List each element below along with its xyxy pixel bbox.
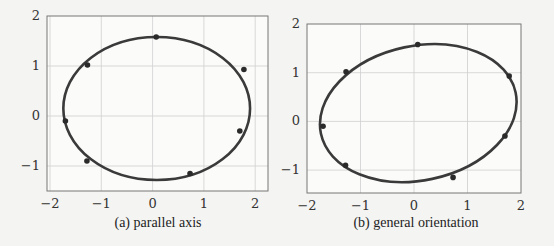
data-point <box>241 67 247 73</box>
plot-general-orientation: −2−1012210−1 <box>281 16 530 213</box>
caption-a: (a) parallel axis <box>114 215 201 231</box>
x-tick-label: 0 <box>148 196 156 211</box>
data-point <box>153 34 159 40</box>
data-point <box>502 133 508 139</box>
x-tick-label: −1 <box>92 196 111 211</box>
y-tick-label: 2 <box>32 8 40 23</box>
data-point <box>237 128 243 134</box>
data-point <box>63 118 69 124</box>
x-tick-label: −1 <box>351 198 370 213</box>
data-point <box>320 123 326 129</box>
y-tick-label: 0 <box>32 108 40 123</box>
figure: −2−1012210−1 −2−1012210−1 (a) parallel a… <box>0 0 554 246</box>
x-tick-label: 2 <box>251 196 259 211</box>
data-point <box>85 62 91 68</box>
x-tick-label: 1 <box>200 196 208 211</box>
x-tick-label: −2 <box>297 198 316 213</box>
y-tick-label: 0 <box>292 113 300 128</box>
data-point <box>187 171 193 177</box>
data-point <box>343 69 349 75</box>
caption-b: (b) general orientation <box>353 215 478 231</box>
data-point <box>84 158 90 164</box>
x-tick-label: 0 <box>410 198 418 213</box>
y-tick-label: 2 <box>292 16 300 31</box>
x-tick-label: 1 <box>463 198 471 213</box>
y-tick-label: 1 <box>32 58 40 73</box>
y-tick-label: −1 <box>281 162 300 177</box>
data-point <box>415 42 421 48</box>
x-tick-label: 2 <box>517 198 525 213</box>
data-point <box>450 175 456 181</box>
y-tick-label: 1 <box>292 65 300 80</box>
y-tick-label: −1 <box>21 158 40 173</box>
x-tick-label: −2 <box>40 196 59 211</box>
plot-parallel-axis: −2−1012210−1 <box>21 8 268 211</box>
data-point <box>506 73 512 79</box>
data-point <box>343 162 349 168</box>
